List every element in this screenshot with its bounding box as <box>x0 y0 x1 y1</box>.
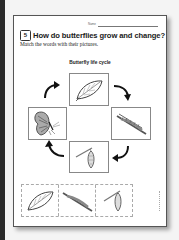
diagram-title: Butterfly life cycle <box>14 60 166 65</box>
name-label: Name <box>88 22 96 26</box>
cutout-chrysalis[interactable] <box>96 185 132 216</box>
cutout-strip <box>21 184 133 217</box>
leaf-with-eggs-icon <box>70 74 108 105</box>
clockwise-arrow-top-right <box>112 82 132 102</box>
caterpillar-on-branch-icon <box>59 185 95 216</box>
stage-caterpillar-box <box>111 107 151 140</box>
clockwise-arrow-bottom-right <box>112 144 132 164</box>
butterfly-icon <box>29 108 66 139</box>
clockwise-arrow-top-left <box>41 80 61 100</box>
left-edge-strip <box>0 0 5 240</box>
instructions-text: Match the words with their pictures. <box>20 41 98 47</box>
clockwise-arrow-bottom-left <box>44 140 66 160</box>
name-field[interactable]: Name <box>88 22 160 28</box>
cutout-leaf[interactable] <box>22 185 59 216</box>
caterpillar-on-branch-icon <box>112 108 150 139</box>
cutout-caterpillar[interactable] <box>59 185 96 216</box>
stage-chrysalis-box <box>69 141 109 173</box>
chrysalis-icon <box>96 185 132 216</box>
worksheet-page: Name 5 How do butterflies grow and chang… <box>13 15 167 227</box>
stage-egg-box <box>69 73 109 106</box>
stage-butterfly-box <box>28 107 67 140</box>
page-title: How do butterflies grow and change? <box>33 31 165 40</box>
leaf-with-eggs-icon <box>22 185 58 216</box>
lesson-number-badge: 5 <box>20 30 31 41</box>
chrysalis-icon <box>70 142 108 172</box>
cut-guide-line <box>159 191 160 211</box>
name-line <box>98 26 158 27</box>
